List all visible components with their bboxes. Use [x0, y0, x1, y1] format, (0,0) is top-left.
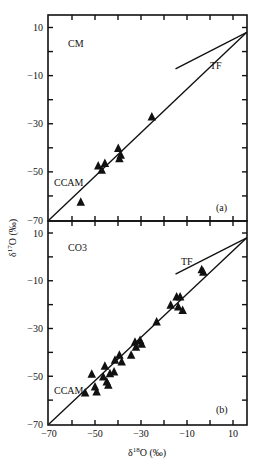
triangle-marker	[101, 158, 110, 167]
panel-a-ccam-label: CCAM	[54, 177, 84, 188]
y-tick-label: −30	[27, 118, 43, 129]
triangle-marker	[152, 317, 161, 326]
panel-a-sample-label: CM	[68, 38, 84, 49]
y-tick-label: 10	[33, 22, 43, 33]
y-tick-label: −70	[27, 215, 43, 226]
panel-b-tag: (b)	[216, 404, 228, 416]
panel-a-tf-label: TF	[210, 60, 222, 71]
triangle-marker	[76, 197, 85, 206]
triangle-marker	[127, 350, 136, 359]
panel-b-sample-label: CO3	[68, 242, 87, 253]
ccam-line	[49, 238, 247, 424]
triangle-marker	[88, 369, 97, 378]
triangle-marker	[166, 300, 175, 309]
figure: 10−10−30−50−70 10−10−30−50−70−70−50−30−1…	[0, 0, 263, 469]
triangle-marker	[101, 361, 110, 370]
y-tick-label: 10	[33, 228, 43, 239]
panel-a-tag: (a)	[216, 202, 227, 214]
data-points	[76, 112, 156, 206]
y-tick-label: −50	[27, 166, 43, 177]
panel-b-co3: 10−10−30−50−70−70−50−30−1010	[27, 221, 247, 439]
y-tick-label: −10	[27, 70, 43, 81]
x-tick-label: −70	[41, 428, 57, 439]
x-tick-label: 10	[228, 428, 238, 439]
x-tick-label: −30	[133, 428, 149, 439]
y-tick-label: −50	[27, 371, 43, 382]
y-tick-label: −30	[27, 323, 43, 334]
x-axis-title: δ18O (‰)	[128, 446, 166, 459]
x-tick-label: −10	[179, 428, 195, 439]
panel-b-ccam-label: CCAM	[54, 385, 84, 396]
x-tick-label: −50	[87, 428, 103, 439]
y-axis-title: δ17O (‰)	[6, 219, 19, 257]
triangle-marker	[114, 144, 123, 153]
panel-b-tf-label: TF	[181, 256, 193, 267]
y-tick-label: −10	[27, 275, 43, 286]
reference-lines	[49, 238, 247, 424]
triangle-marker	[148, 112, 157, 121]
panel-a-cm: 10−10−30−50−70	[27, 15, 247, 226]
